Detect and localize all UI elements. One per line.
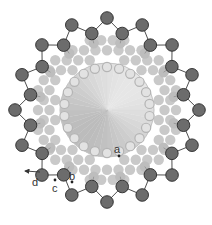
- inner-ring-atom: [135, 77, 144, 86]
- filler-atom: [44, 85, 54, 95]
- inner-ring-atom: [79, 69, 88, 78]
- filler-atom: [125, 165, 135, 175]
- outer-atom: [166, 169, 179, 182]
- filler-atom: [148, 65, 158, 75]
- filler-atom: [56, 145, 66, 155]
- zigzag-inner-atom: [177, 119, 190, 132]
- outer-atom: [136, 189, 149, 202]
- filler-atom: [79, 165, 89, 175]
- zigzag-inner-atom: [177, 88, 190, 101]
- inner-ring-atom: [70, 134, 79, 143]
- zigzag-inner-atom: [36, 147, 49, 160]
- filler-atom: [159, 125, 169, 135]
- filler-atom: [44, 105, 54, 115]
- inner-ring-atom: [90, 64, 99, 73]
- filler-atom: [154, 115, 164, 125]
- inner-ring-atom: [126, 142, 135, 151]
- filler-atom: [67, 65, 77, 75]
- filler-atom: [125, 45, 135, 55]
- filler-atom: [159, 85, 169, 95]
- filler-atom: [136, 145, 146, 155]
- outer-atom: [136, 19, 149, 32]
- inner-ring-atom: [60, 99, 69, 108]
- inner-ring-atom: [102, 62, 111, 71]
- filler-atom: [50, 115, 60, 125]
- zigzag-inner-atom: [116, 27, 129, 40]
- filler-atom: [102, 165, 112, 175]
- filler-atom: [33, 105, 43, 115]
- outer-atom: [16, 139, 29, 152]
- zigzag-inner-atom: [166, 60, 179, 73]
- filler-atom: [73, 155, 83, 165]
- filler-atom: [165, 135, 175, 145]
- filler-atom: [131, 55, 141, 65]
- inner-ring-atom: [145, 112, 154, 121]
- inner-ring-atom: [70, 77, 79, 86]
- inner-ring-atom: [60, 112, 69, 121]
- marker-b: [71, 181, 74, 184]
- marker-a: [118, 155, 121, 158]
- inner-ring-atom: [142, 123, 151, 132]
- filler-atom: [39, 135, 49, 145]
- filler-atom: [73, 55, 83, 65]
- filler-atom: [44, 125, 54, 135]
- outer-atom: [16, 68, 29, 81]
- filler-atom: [50, 95, 60, 105]
- filler-atom: [50, 55, 60, 65]
- filler-atom: [154, 55, 164, 65]
- filler-atom: [148, 145, 158, 155]
- outer-atom: [186, 68, 199, 81]
- outer-atom: [36, 39, 49, 52]
- filler-atom: [102, 45, 112, 55]
- inner-ring-atom: [79, 142, 88, 151]
- zigzag-inner-atom: [144, 169, 157, 182]
- label-c: c: [52, 182, 58, 194]
- zigzag-inner-atom: [57, 39, 70, 52]
- outer-atom: [9, 104, 22, 117]
- zigzag-inner-atom: [36, 60, 49, 73]
- zigzag-inner-atom: [24, 119, 37, 132]
- filler-atom: [171, 105, 181, 115]
- label-d: d: [32, 176, 38, 188]
- inner-ring-atom: [63, 88, 72, 97]
- filler-atom: [165, 75, 175, 85]
- inner-ring-atom: [115, 64, 124, 73]
- filler-atom: [131, 155, 141, 165]
- inner-ring-atom: [90, 147, 99, 156]
- zigzag-inner-atom: [166, 147, 179, 160]
- zigzag-inner-atom: [24, 88, 37, 101]
- outer-atom: [101, 12, 114, 25]
- inner-ring-atom: [145, 99, 154, 108]
- outer-atom: [186, 139, 199, 152]
- filler-atom: [159, 105, 169, 115]
- outer-atom: [101, 196, 114, 209]
- atomic-ring-diagram: a b c d: [0, 0, 212, 225]
- zigzag-inner-atom: [85, 27, 98, 40]
- zigzag-inner-atom: [116, 180, 129, 193]
- filler-atom: [67, 145, 77, 155]
- zigzag-inner-atom: [144, 39, 157, 52]
- filler-atom: [56, 65, 66, 75]
- filler-atom: [136, 65, 146, 75]
- inner-ring-atom: [63, 123, 72, 132]
- filler-atom: [39, 75, 49, 85]
- outer-atom: [65, 19, 78, 32]
- marker-c: [54, 179, 57, 182]
- filler-atom: [154, 95, 164, 105]
- outer-atom: [65, 189, 78, 202]
- inner-ring-atom: [102, 148, 111, 157]
- filler-atom: [79, 45, 89, 55]
- inner-ring-atom: [142, 88, 151, 97]
- inner-ring-atom: [126, 69, 135, 78]
- label-b: b: [69, 170, 75, 182]
- label-a: a: [114, 143, 121, 155]
- zigzag-inner-atom: [85, 180, 98, 193]
- outer-atom: [193, 104, 206, 117]
- outer-atom: [166, 39, 179, 52]
- filler-atom: [50, 155, 60, 165]
- filler-atom: [154, 155, 164, 165]
- inner-ring-atom: [135, 134, 144, 143]
